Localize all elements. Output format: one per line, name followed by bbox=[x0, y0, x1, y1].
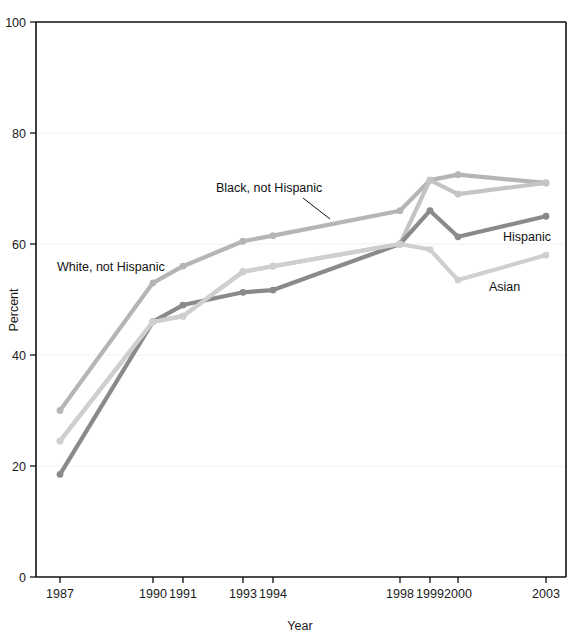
data-point bbox=[427, 207, 434, 214]
chart-background bbox=[0, 0, 576, 640]
y-tick-label: 20 bbox=[12, 460, 26, 474]
series-label: White, not Hispanic bbox=[57, 260, 165, 274]
series-label: Asian bbox=[489, 280, 520, 294]
data-point bbox=[270, 287, 277, 294]
chart-container: 020406080100 198719901991199319941998199… bbox=[0, 0, 576, 640]
data-point bbox=[150, 318, 157, 325]
x-tick-label: 2003 bbox=[532, 587, 560, 601]
x-tick-label: 1999 bbox=[416, 587, 444, 601]
x-axis-title: Year bbox=[287, 619, 312, 633]
series-label: Black, not Hispanic bbox=[216, 181, 322, 195]
x-tick-label: 1993 bbox=[229, 587, 257, 601]
data-point bbox=[57, 438, 64, 445]
data-point bbox=[180, 263, 187, 270]
data-point bbox=[180, 302, 187, 309]
x-tick-label: 1991 bbox=[169, 587, 197, 601]
data-point bbox=[240, 238, 247, 245]
data-point bbox=[455, 233, 462, 240]
data-point bbox=[455, 191, 462, 198]
data-point bbox=[57, 407, 64, 414]
x-tick-label: 1998 bbox=[386, 587, 414, 601]
data-point bbox=[543, 213, 550, 220]
y-tick-label: 0 bbox=[19, 571, 26, 585]
y-tick-label: 60 bbox=[12, 238, 26, 252]
y-tick-label: 80 bbox=[12, 127, 26, 141]
data-point bbox=[150, 279, 157, 286]
x-tick-label: 1994 bbox=[259, 587, 287, 601]
x-tick-label: 1990 bbox=[139, 587, 167, 601]
data-point bbox=[397, 241, 404, 248]
data-point bbox=[240, 289, 247, 296]
data-point bbox=[455, 171, 462, 178]
data-point bbox=[543, 252, 550, 259]
data-point bbox=[57, 471, 64, 478]
series-label: Hispanic bbox=[503, 230, 551, 244]
data-point bbox=[543, 180, 550, 187]
data-point bbox=[427, 246, 434, 253]
data-point bbox=[270, 232, 277, 239]
data-point bbox=[397, 207, 404, 214]
data-point bbox=[427, 177, 434, 184]
data-point bbox=[240, 268, 247, 275]
y-axis-title: Percent bbox=[7, 288, 21, 332]
data-point bbox=[180, 313, 187, 320]
x-tick-label: 2000 bbox=[444, 587, 472, 601]
line-chart: 020406080100 198719901991199319941998199… bbox=[0, 0, 576, 640]
data-point bbox=[270, 263, 277, 270]
y-tick-label: 100 bbox=[5, 16, 26, 30]
x-tick-label: 1987 bbox=[46, 587, 74, 601]
y-tick-label: 40 bbox=[12, 349, 26, 363]
data-point bbox=[455, 277, 462, 284]
